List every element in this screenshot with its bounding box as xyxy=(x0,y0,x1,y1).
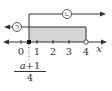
fraction-denominator: 4 xyxy=(14,72,46,83)
tick-label-1: 1 xyxy=(34,46,40,57)
point-fraction-label: a+1 4 xyxy=(14,60,46,83)
fraction-numerator-rest: +1 xyxy=(26,60,41,71)
fraction-numerator: a+1 xyxy=(14,60,46,72)
number-line-left-arrowhead-icon xyxy=(3,40,9,45)
tick-label-0: 0 xyxy=(18,46,24,57)
number-line-right-arrowhead-icon xyxy=(101,40,107,45)
arrow-g-arrowhead-icon xyxy=(4,25,10,30)
arrow-n-arrowhead-icon xyxy=(100,12,106,17)
arrow-n-label: ㄴ xyxy=(64,10,70,17)
arrow-g-label: ㄱ xyxy=(14,23,20,30)
tick-label-2: 2 xyxy=(50,46,56,57)
tick-label-3: 3 xyxy=(66,46,72,57)
open-point xyxy=(84,40,88,44)
tick-label-4: 4 xyxy=(83,46,89,57)
closed-point xyxy=(27,40,31,44)
axis-label-x: x xyxy=(96,43,102,54)
shaded-region xyxy=(29,27,86,42)
